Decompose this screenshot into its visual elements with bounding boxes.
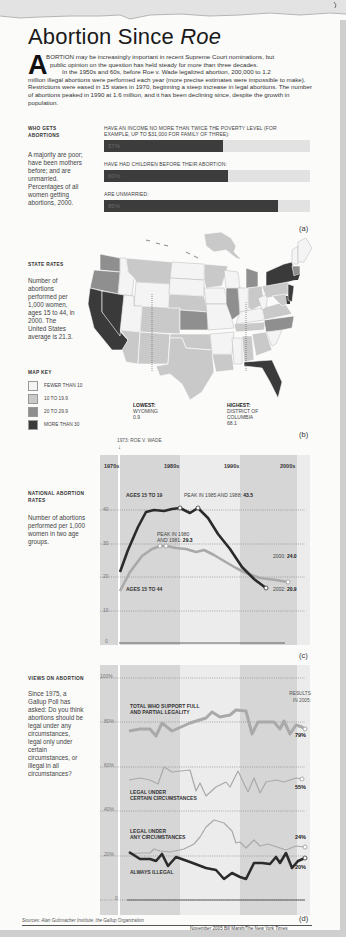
state-michigan	[246, 268, 258, 288]
panel-d-heading: VIEWS ON ABORTION	[28, 676, 84, 681]
page-shadow-right	[340, 20, 346, 937]
lead-paragraph: BORTION may be increasingly important in…	[28, 53, 312, 106]
down-arrow-icon: ↓	[118, 444, 121, 450]
bar-track-unmarried: 85%	[104, 200, 310, 212]
state-new-mexico	[138, 332, 170, 364]
series-label-ages-15-19: AGES 15 TO 19	[126, 492, 162, 498]
end-teen-annotation: 2000: 24.0	[273, 553, 297, 559]
swatch-20-to-29	[28, 407, 38, 417]
state-iowa	[204, 288, 228, 304]
state-new-york	[266, 262, 296, 286]
end-all-annotation: 2002: 20.9	[273, 586, 297, 592]
bar-unmarried: 85%	[104, 200, 278, 212]
decade-1970s: 1970s	[104, 463, 119, 469]
bar-label-unmarried: ARE UNMARRIED:	[104, 191, 314, 197]
map-key-item: MORE THAN 30	[28, 420, 82, 433]
ytick-40pct: 40%	[104, 806, 114, 812]
panel-c-heading: NATIONAL ABORTION RATES	[28, 490, 88, 504]
ytick-20: 20	[103, 573, 109, 579]
label-any-circumstances: LEGAL UNDERANY CIRCUMSTANCES	[130, 828, 185, 840]
us-state-rates-map	[86, 232, 318, 407]
end-total-value: 79%	[295, 732, 306, 738]
state-florida	[244, 360, 282, 398]
state-arkansas	[210, 332, 234, 354]
state-washington	[100, 254, 120, 272]
map-key-item: 20 TO 29.9	[28, 407, 82, 420]
end-certain-value: 55%	[295, 784, 306, 790]
swatch-fewer-than-10	[28, 381, 38, 391]
ytick-100pct: 100%	[100, 673, 113, 679]
who-gets-bar-chart: HAVE AN INCOME NO MORE THAN TWICE THE PO…	[104, 126, 314, 212]
decade-1990s: 1990s	[224, 463, 239, 469]
ytick-40: 40	[103, 506, 109, 512]
results-2005-label: RESULTSIN 2005:	[286, 690, 311, 704]
decade-1980s: 1980s	[164, 463, 179, 469]
national-rates-line-chart	[100, 455, 310, 645]
bar-children: 60%	[104, 170, 228, 182]
state-alabama	[242, 336, 254, 362]
state-vermont	[292, 246, 298, 264]
state-indiana	[238, 288, 248, 314]
bar-label-children: HAVE HAD CHILDREN BEFORE THEIR ABORTION:	[104, 161, 314, 167]
state-wisconsin	[224, 270, 240, 288]
decade-2000s: 2000s	[280, 463, 295, 469]
map-key-item: FEWER THAN 10	[28, 381, 82, 394]
series-label-ages-15-44: AGES 15 TO 44	[126, 586, 162, 592]
end-any-value: 24%	[295, 834, 306, 840]
panel-b-label: (b)	[299, 430, 308, 439]
peak-all-annotation: PEAK IN 1980AND 1981: 29.3	[157, 531, 193, 543]
peak-teen-annotation: PEAK IN 1985 AND 1988: 43.5	[184, 492, 253, 498]
bar-label-income: HAVE AN INCOME NO MORE THAN TWICE THE PO…	[104, 126, 284, 137]
ytick-80pct: 80%	[104, 718, 114, 724]
lowest-annotation: LOWEST: WYOMING 0.9	[133, 402, 158, 420]
page-title: Abortion Since Roe	[28, 24, 221, 50]
state-maine	[298, 238, 312, 262]
state-colorado	[140, 306, 180, 334]
map-key-item: 10 TO 19.9	[28, 394, 82, 407]
state-maryland	[272, 294, 288, 306]
panel-c-label: (c)	[299, 651, 308, 660]
state-north-dakota	[170, 262, 204, 280]
label-always-illegal: ALWAYS ILLEGAL	[130, 869, 173, 875]
label-certain-circumstances: LEGAL UNDERCERTAIN CIRCUMSTANCES	[130, 789, 197, 801]
panel-a-description: A majority are poor; have been mothers b…	[28, 151, 86, 207]
state-new-jersey	[288, 284, 294, 302]
ytick-20pct: 20%	[104, 851, 114, 857]
ytick-0: 0	[105, 638, 108, 644]
state-mississippi	[232, 338, 242, 364]
ytick-30: 30	[103, 540, 109, 546]
map-key: FEWER THAN 10 10 TO 19.9 20 TO 29.9 MORE…	[28, 381, 82, 433]
ytick-60pct: 60%	[104, 762, 114, 768]
state-louisiana	[212, 354, 234, 372]
panel-d-label: (d)	[299, 914, 308, 923]
credit-line: November 2005 Bill Marsh/The New York Ti…	[190, 926, 288, 931]
label-total-support: TOTAL WHO SUPPORT FULLAND PARTIAL LEGALI…	[130, 703, 199, 715]
highest-annotation: HIGHEST: DISTRICT OF COLUMBIA 68.1	[227, 402, 258, 426]
swatch-more-than-30	[28, 420, 38, 430]
bar-track-income: 57%	[104, 140, 310, 152]
panel-b-heading: STATE RATES	[28, 262, 64, 267]
ytick-0pct: 0	[115, 895, 118, 901]
panel-b-description: Number of abortions performed per 1,000 …	[28, 277, 76, 341]
state-kansas	[180, 310, 208, 330]
swatch-10-to-19	[28, 394, 38, 404]
roe-marker-label: 1973: ROE V. WADE	[117, 438, 162, 443]
panel-a-heading: WHO GETS ABORTIONS	[28, 125, 88, 139]
panel-c-description: Number of abortions performed per 1,000 …	[28, 514, 86, 546]
state-south-dakota	[169, 278, 204, 296]
end-illegal-value: 20%	[295, 864, 306, 870]
sources-note: Sources: Alan Guttmacher Institute, the …	[22, 918, 144, 923]
torn-paper-edge	[0, 0, 346, 26]
panel-d-description: Since 1975, a Gallup Poll has asked: Do …	[28, 690, 84, 778]
bar-track-children: 60%	[104, 170, 310, 182]
map-key-heading: MAP KEY	[28, 370, 52, 375]
bar-income: 57%	[104, 140, 223, 152]
state-minnesota	[204, 264, 228, 288]
ytick-10: 10	[103, 607, 109, 613]
page-shadow-bottom	[0, 930, 346, 937]
